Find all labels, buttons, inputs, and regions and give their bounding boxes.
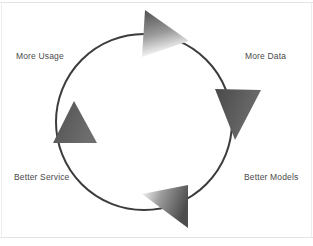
arrow-right-icon bbox=[215, 89, 261, 140]
cycle-label-better-models: Better Models bbox=[244, 172, 298, 183]
cycle-diagram-graphic bbox=[0, 0, 313, 246]
cycle-label-better-service: Better Service bbox=[14, 172, 69, 183]
cycle-label-more-usage: More Usage bbox=[16, 51, 64, 62]
arrow-left-icon bbox=[53, 101, 97, 143]
cycle-label-more-data: More Data bbox=[245, 51, 286, 62]
arrow-bottom-icon bbox=[142, 185, 188, 228]
diagram-canvas: More Usage More Data Better Service Bett… bbox=[0, 0, 313, 246]
arrow-top-icon bbox=[142, 10, 189, 57]
